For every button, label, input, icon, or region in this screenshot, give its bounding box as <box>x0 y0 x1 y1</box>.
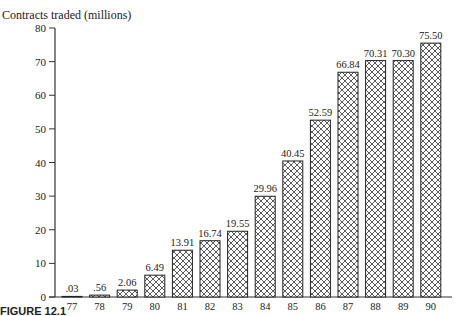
bar-value-label: 2.06 <box>118 277 136 288</box>
y-tick-label: 60 <box>35 89 47 101</box>
bar <box>283 161 303 297</box>
x-tick-label: 88 <box>370 301 381 312</box>
y-tick-label: 40 <box>35 157 47 169</box>
x-tick-label: 79 <box>122 301 133 312</box>
bar <box>228 231 248 297</box>
bar-value-label: 70.30 <box>391 48 415 59</box>
y-tick-label: 80 <box>35 22 47 34</box>
bar <box>421 43 441 297</box>
bar <box>310 120 330 297</box>
bar-value-label: 6.49 <box>146 262 164 273</box>
figure-caption: FIGURE 12.1 <box>0 305 66 316</box>
bar-value-label: 66.84 <box>336 59 360 70</box>
x-tick-label: 82 <box>205 301 216 312</box>
bar <box>117 290 137 297</box>
bar-value-label: .56 <box>93 282 106 293</box>
bar-value-label: 70.31 <box>364 48 388 59</box>
x-tick-label: 89 <box>398 301 409 312</box>
bar-value-label: 16.74 <box>198 228 222 239</box>
y-tick-label: 20 <box>35 224 47 236</box>
bar <box>393 61 413 297</box>
bar-value-label: 40.45 <box>281 148 305 159</box>
x-tick-label: 81 <box>177 301 188 312</box>
x-tick-label: 87 <box>343 301 354 312</box>
bar <box>145 275 165 297</box>
bar <box>90 295 110 297</box>
x-tick-label: 78 <box>94 301 105 312</box>
bar-value-label: 19.55 <box>226 218 250 229</box>
x-tick-label: 90 <box>426 301 437 312</box>
bar-value-label: 13.91 <box>171 237 195 248</box>
bar-chart: 01020304050607080 .0377.56782.06796.4980… <box>0 0 463 316</box>
bars: .0377.56782.06796.498013.918116.748219.5… <box>62 30 443 312</box>
bar <box>62 296 82 297</box>
y-tick-label: 10 <box>35 257 47 269</box>
x-tick-label: 83 <box>232 301 243 312</box>
x-tick-label: 80 <box>150 301 161 312</box>
x-tick-label: 84 <box>260 301 271 312</box>
bar <box>255 196 275 297</box>
bar <box>172 250 192 297</box>
y-tick-label: 30 <box>35 190 47 202</box>
y-tick-label: 70 <box>35 56 47 68</box>
x-tick-label: 85 <box>288 301 299 312</box>
y-tick-label: 50 <box>35 123 47 135</box>
bar-value-label: 52.59 <box>309 107 333 118</box>
bar <box>366 61 386 297</box>
x-tick-label: 86 <box>315 301 326 312</box>
y-tick-label: 0 <box>41 291 47 303</box>
x-tick-label: 77 <box>67 301 78 312</box>
bar-value-label: .03 <box>65 283 78 294</box>
bar <box>338 72 358 297</box>
bar <box>200 241 220 297</box>
bar-value-label: 29.96 <box>253 183 277 194</box>
bar-value-label: 75.50 <box>419 30 443 41</box>
